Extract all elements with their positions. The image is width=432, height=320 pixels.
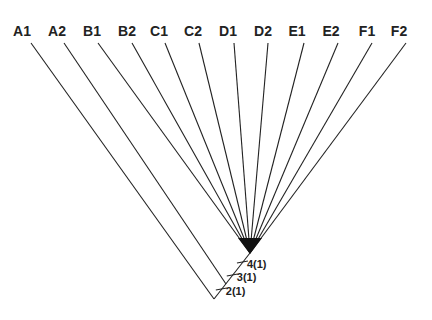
node-label: 4(1) [247, 258, 267, 270]
taxon-label-c2: C2 [184, 23, 202, 39]
node-label: 3(1) [237, 271, 257, 283]
taxon-label-c1: C1 [150, 23, 168, 39]
taxon-label-a2: A2 [48, 23, 66, 39]
node-label: 2(1) [226, 285, 246, 297]
branch-b1 [98, 43, 250, 253]
branch-e1 [250, 43, 304, 253]
branch-f1 [250, 43, 372, 253]
branch-a2 [64, 43, 226, 284]
taxon-label-e2: E2 [322, 23, 339, 39]
taxon-label-d1: D1 [219, 23, 237, 39]
taxon-label-d2: D2 [254, 23, 272, 39]
taxon-label-b2: B2 [118, 23, 136, 39]
branch-e2 [250, 43, 338, 253]
taxon-label-b1: B1 [83, 23, 101, 39]
cladogram: A1A2B1B2C1C2D1D2E1E2F1F2 4(1)3(1)2(1) [0, 0, 432, 320]
taxon-label-f2: F2 [391, 23, 408, 39]
taxon-label-a1: A1 [13, 23, 31, 39]
polytomy-node [238, 238, 262, 254]
taxon-label-f1: F1 [359, 23, 376, 39]
branch-c1 [165, 43, 250, 253]
branch-d2 [250, 43, 268, 253]
taxon-label-e1: E1 [288, 23, 305, 39]
branch-b2 [132, 43, 250, 253]
branch-f2 [250, 43, 406, 253]
branch-a1 [31, 43, 214, 299]
